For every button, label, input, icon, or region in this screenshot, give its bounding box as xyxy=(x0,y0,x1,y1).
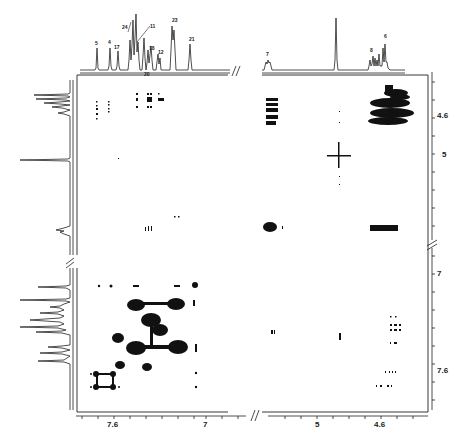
peak-label-24: 24 xyxy=(122,24,128,30)
peak-label-23: 23 xyxy=(172,17,178,23)
peak-label-24-leader xyxy=(128,22,131,32)
peak-label-8: 8 xyxy=(370,47,373,53)
cross-peaks xyxy=(90,85,414,390)
plot-frame xyxy=(77,75,428,412)
y-tick-label-4.6: 4.6 xyxy=(437,111,449,120)
left-axis-break-icon xyxy=(66,258,74,268)
bottom-axis-break-icon xyxy=(251,410,259,421)
peak-label-21: 21 xyxy=(189,36,195,42)
top-peak-labels: 5 4 17 24 11 20 18 12 23 21 7 8 6 xyxy=(95,17,387,77)
peak-label-17: 17 xyxy=(114,44,120,50)
y-tick-label-7: 7 xyxy=(437,269,442,278)
x-axis-ticks xyxy=(82,416,413,419)
x-tick-label-7: 7 xyxy=(203,420,208,429)
y-tick-label-7.6: 7.6 xyxy=(437,366,449,375)
peak-label-4: 4 xyxy=(108,39,111,45)
x-tick-label-4.6: 4.6 xyxy=(374,420,386,429)
peak-label-5: 5 xyxy=(95,40,98,46)
aliphatic-diagonal-cluster xyxy=(266,85,414,125)
peak-label-11: 11 xyxy=(150,23,156,29)
cosy-nmr-chart: 5 4 17 24 11 20 18 12 23 21 7 8 6 xyxy=(0,0,463,448)
h7-cross-peaks xyxy=(263,222,398,232)
left-projection-spectrum xyxy=(20,80,73,410)
top-axis-break-icon xyxy=(232,66,240,76)
x-tick-label-7.6: 7.6 xyxy=(107,420,119,429)
solvent-peak xyxy=(327,111,351,185)
y-axis xyxy=(432,72,435,410)
y-tick-label-5: 5 xyxy=(442,150,447,159)
y-axis-ticks xyxy=(432,82,435,400)
aromatic-aliphatic-cross-peaks xyxy=(96,93,180,231)
peak-label-11-leader xyxy=(137,26,150,42)
top-projection-spectrum xyxy=(80,14,405,73)
bottom-right-cross-peaks xyxy=(271,316,401,387)
peak-label-20: 20 xyxy=(144,71,150,77)
peak-label-12: 12 xyxy=(158,49,164,55)
peak-label-7: 7 xyxy=(266,51,269,57)
peak-label-18: 18 xyxy=(149,45,155,51)
x-tick-label-5: 5 xyxy=(315,420,320,429)
aromatic-diagonal-cross-peaks xyxy=(90,282,198,390)
peak-label-6: 6 xyxy=(384,33,387,39)
